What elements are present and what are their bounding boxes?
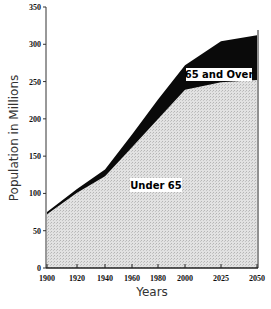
y-axis-ticks: 050100150200250300350 — [29, 3, 46, 273]
y-tick-label: 0 — [37, 264, 41, 273]
y-tick-label: 350 — [29, 3, 41, 12]
population-chart: 050100150200250300350 190019201940196019… — [0, 0, 271, 309]
x-axis-title: Years — [135, 285, 168, 299]
x-tick-label: 2050 — [249, 274, 265, 283]
y-tick-label: 50 — [33, 227, 41, 236]
under-65-label-box: Under 65 — [130, 178, 182, 192]
x-tick-label: 1900 — [39, 274, 55, 283]
x-tick-label: 2025 — [213, 274, 229, 283]
y-tick-label: 250 — [29, 78, 41, 87]
y-tick-label: 300 — [29, 40, 41, 49]
y-tick-label: 200 — [29, 115, 41, 124]
65-and-over-label-box: 65 and Over — [185, 68, 254, 81]
y-axis-title: Population in Millions — [7, 75, 21, 202]
x-tick-label: 1960 — [124, 274, 140, 283]
x-tick-label: 1920 — [69, 274, 85, 283]
under-65-label: Under 65 — [130, 180, 182, 191]
y-tick-label: 100 — [29, 189, 41, 198]
y-tick-label: 150 — [29, 152, 41, 161]
x-tick-label: 2000 — [177, 274, 193, 283]
x-tick-label: 1940 — [97, 274, 113, 283]
x-tick-label: 1980 — [150, 274, 166, 283]
65-and-over-label: 65 and Over — [185, 69, 254, 80]
